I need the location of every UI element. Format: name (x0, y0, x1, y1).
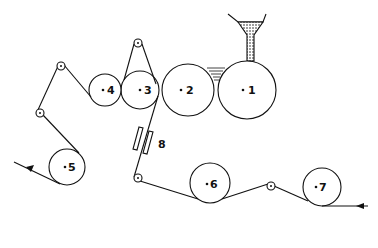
machine-diagram: 1 2 3 4 5 6 7 8 (0, 0, 378, 248)
roll-4 (89, 74, 121, 106)
heater-plates (133, 127, 153, 154)
roll-6-label: 6 (210, 178, 218, 191)
roll-5-label: 5 (68, 161, 76, 174)
hopper (228, 14, 266, 61)
roll-4-label: 4 (107, 84, 115, 97)
roll-3-label: 3 (144, 84, 152, 97)
plates-label: 8 (158, 138, 166, 151)
roll-1-label: 1 (248, 84, 256, 97)
roll-2-label: 2 (186, 84, 194, 97)
roll-5 (49, 149, 85, 185)
roll-7-label: 7 (319, 181, 327, 194)
entry-arrow-icon (356, 203, 364, 209)
roll-1 (218, 61, 276, 119)
